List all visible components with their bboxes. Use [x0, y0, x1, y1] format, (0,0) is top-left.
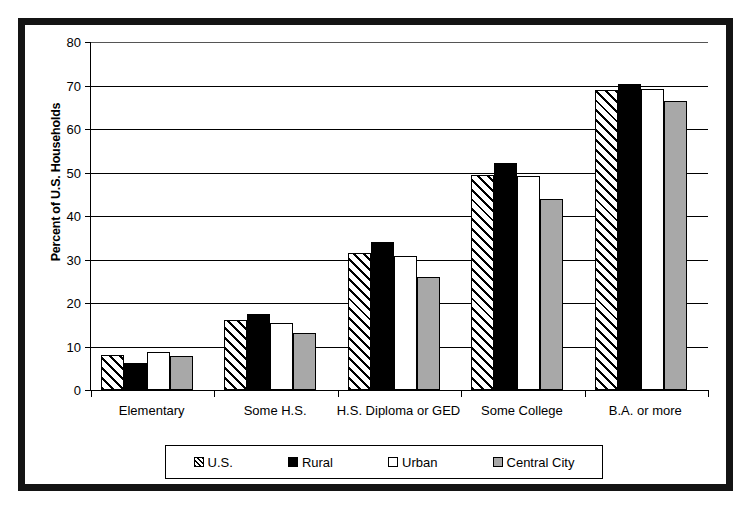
- bar: [595, 90, 618, 390]
- bar: [348, 253, 371, 390]
- legend-swatch-us: [194, 457, 204, 467]
- y-axis-tick-label: 80: [67, 35, 81, 50]
- bar: [417, 277, 440, 390]
- x-axis-tick: [214, 390, 215, 397]
- chart-legend: U.S.RuralUrbanCentral City: [165, 445, 603, 479]
- y-axis-tick-label: 20: [67, 296, 81, 311]
- bar: [124, 363, 147, 390]
- bar: [471, 175, 494, 390]
- y-axis-tick-label: 60: [67, 122, 81, 137]
- x-axis-tick: [585, 390, 586, 397]
- y-axis-title: Percent of U.S. Households: [49, 67, 63, 297]
- chart-frame: Percent of U.S. Households 0102030405060…: [18, 18, 733, 491]
- chart-figure: Percent of U.S. Households 0102030405060…: [0, 0, 751, 509]
- bar: [540, 199, 563, 390]
- bar-group: [461, 42, 584, 390]
- bar: [170, 356, 193, 390]
- bar: [494, 163, 517, 391]
- bar-group: [585, 42, 708, 390]
- y-axis-tick-label: 70: [67, 78, 81, 93]
- bar: [664, 101, 687, 390]
- legend-swatch-urban: [388, 457, 398, 467]
- y-axis-tick-label: 50: [67, 165, 81, 180]
- legend-label: Rural: [302, 455, 333, 470]
- x-axis-category-label: H.S. Diploma or GED: [329, 401, 468, 420]
- y-axis-tick-label: 0: [74, 383, 81, 398]
- bar: [618, 84, 641, 390]
- legend-item: Central City: [493, 455, 575, 470]
- legend-item: U.S.: [194, 455, 233, 470]
- legend-label: Urban: [402, 455, 437, 470]
- bar-group: [91, 42, 214, 390]
- x-axis-category-label: Elementary: [82, 401, 221, 420]
- bar: [517, 176, 540, 390]
- bar: [147, 352, 170, 390]
- bar: [101, 355, 124, 390]
- legend-item: Rural: [288, 455, 333, 470]
- legend-item: Urban: [388, 455, 437, 470]
- bar-group: [338, 42, 461, 390]
- chart-inner: Percent of U.S. Households 0102030405060…: [25, 25, 726, 484]
- legend-label: Central City: [507, 455, 575, 470]
- x-axis-tick: [338, 390, 339, 397]
- bar: [247, 314, 270, 390]
- plot-area: 01020304050607080: [90, 42, 708, 391]
- x-axis-category-label: B.A. or more: [576, 401, 715, 420]
- x-axis-tick: [461, 390, 462, 397]
- bar: [270, 323, 293, 390]
- bar: [641, 89, 664, 390]
- legend-label: U.S.: [208, 455, 233, 470]
- x-axis-tick: [91, 390, 92, 397]
- y-axis-tick-label: 40: [67, 209, 81, 224]
- bar: [293, 333, 316, 390]
- bar: [394, 256, 417, 390]
- legend-swatch-rural: [288, 457, 298, 467]
- x-axis-category-label: Some College: [452, 401, 591, 420]
- bar: [224, 320, 247, 390]
- y-axis-tick-label: 30: [67, 252, 81, 267]
- y-axis-tick-label: 10: [67, 339, 81, 354]
- legend-swatch-central: [493, 457, 503, 467]
- bar-group: [214, 42, 337, 390]
- x-axis-category-label: Some H.S.: [205, 401, 344, 420]
- bar: [371, 242, 394, 390]
- x-axis-tick: [708, 390, 709, 397]
